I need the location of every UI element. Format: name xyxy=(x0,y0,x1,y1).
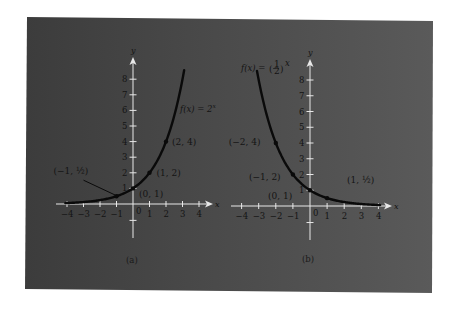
chart-a-function-label: f(x) = 2x xyxy=(179,102,217,114)
chart-a-x-tick-label: 2 xyxy=(164,209,169,219)
chart-b-function-exponent: x xyxy=(285,58,290,68)
figure: x y 0 −4−3−2−1123412345678 (−1, ½)(0, 1)… xyxy=(0,0,455,309)
chart-b-data-point xyxy=(274,141,278,145)
chart-b-function-paren-close: ) xyxy=(280,64,284,74)
chart-b-caption: (b) xyxy=(302,254,314,264)
chart-a-data-point xyxy=(131,186,135,190)
chart-b-x-tick-label: −3 xyxy=(253,211,266,221)
chart-b-origin-label: 0 xyxy=(313,208,318,218)
chart-a-y-tick-label: 4 xyxy=(122,137,127,147)
chart-b-y-tick-label: 6 xyxy=(299,107,304,117)
chart-b-point-label: (0, 1) xyxy=(268,191,292,201)
chart-b-y-tick-label: 3 xyxy=(299,154,304,164)
chart-a-x-tick-label: −1 xyxy=(111,209,124,219)
chart-b-x-tick-label: −2 xyxy=(270,211,283,221)
chart-a-point-label: (1, 2) xyxy=(157,168,181,178)
chart-a-x-tick-label: 4 xyxy=(197,209,202,219)
chart-a-data-point xyxy=(164,139,168,143)
chart-b-x-label: x xyxy=(394,202,399,211)
chart-a-y-tick-label: 2 xyxy=(122,168,127,178)
chart-a-x-label: x xyxy=(215,200,220,209)
chart-b-function-label-lhs: f(x) = xyxy=(240,63,265,73)
chart-a-y-label: y xyxy=(130,46,136,55)
chart-a-point-label: (2, 4) xyxy=(172,137,196,147)
chart-b-x-tick-label: 4 xyxy=(376,211,381,221)
chart-a-point-label: (0, 1) xyxy=(139,189,163,199)
chart-b-function-paren-open: ( xyxy=(269,64,273,74)
chart-b-point-label: (−1, 2) xyxy=(249,172,281,182)
chart-a-function-label-text: f(x) = 2 xyxy=(179,104,213,114)
chart-a-point-label: (−1, ½) xyxy=(54,166,89,176)
chart-b-data-point xyxy=(325,196,329,200)
chart-a-y-tick-label: 3 xyxy=(122,152,127,162)
chart-b-function-denominator: 2 xyxy=(274,66,280,76)
chart-b-x-tick-label: 2 xyxy=(342,211,347,221)
chart-a-origin-label: 0 xyxy=(136,206,141,216)
chart-a-data-point xyxy=(147,171,151,175)
chart-a-y-tick-label: 8 xyxy=(122,74,127,84)
figure-panel xyxy=(25,17,433,293)
chart-a-x-tick-label: 3 xyxy=(180,209,185,219)
chart-b-y-tick-label: 5 xyxy=(299,122,304,132)
chart-a-x-tick-label: −2 xyxy=(94,209,107,219)
chart-a-y-tick-label: 7 xyxy=(122,90,127,100)
chart-b-y-tick-label: 8 xyxy=(299,75,304,85)
chart-a-caption: (a) xyxy=(126,255,138,265)
chart-a-x-tick-label: −4 xyxy=(61,209,74,219)
chart-a-x-tick-label: −3 xyxy=(78,209,91,219)
chart-b-x-tick-label: −4 xyxy=(236,211,249,221)
chart-a-y-tick-label: 5 xyxy=(122,121,127,131)
chart-b-y-tick-label: 7 xyxy=(299,91,304,101)
chart-b-x-tick-label: 1 xyxy=(325,211,330,221)
chart-b-y-tick-label: 2 xyxy=(299,170,304,180)
chart-b-x-tick-label: −1 xyxy=(287,211,300,221)
chart-b-data-point xyxy=(308,188,312,192)
chart-a-x-tick-label: 1 xyxy=(147,209,152,219)
chart-a-y-tick-label: 6 xyxy=(122,105,127,115)
chart-b-point-label: (1, ½) xyxy=(347,175,374,185)
chart-b-data-point xyxy=(291,172,295,176)
chart-b-x-tick-label: 3 xyxy=(359,211,364,221)
chart-b-y-label: y xyxy=(307,48,313,57)
chart-b-point-label: (−2, 4) xyxy=(229,137,261,147)
chart-b-y-tick-label: 4 xyxy=(299,138,304,148)
